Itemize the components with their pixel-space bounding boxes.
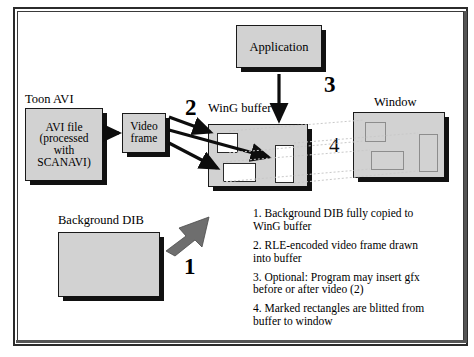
step-number-4: 4 <box>329 135 340 156</box>
window-box <box>353 112 445 178</box>
caption-item-4: 4. Marked rectangles are blitted from bu… <box>253 302 438 328</box>
wing-buffer-box <box>208 124 308 187</box>
video-frame-line-1: Video <box>123 121 165 133</box>
diagram-canvas: Toon AVI AVI file (processed with SCANAV… <box>0 0 474 357</box>
application-box: Application <box>236 25 322 68</box>
window-rect-small-top <box>365 122 386 142</box>
step-number-2: 2 <box>185 96 197 119</box>
step-number-3: 3 <box>324 73 336 96</box>
wing-buffer-rect-wide-bottom <box>223 163 256 182</box>
avi-file-line-1: AVI file <box>26 121 102 133</box>
frame-shadow-right <box>464 11 467 343</box>
caption-item-3: 3. Optional: Program may insert gfx befo… <box>253 271 438 297</box>
toon-avi-label: Toon AVI <box>25 92 74 107</box>
frame-shadow-bottom <box>16 340 467 343</box>
video-frame-box: Video frame <box>122 113 166 153</box>
caption-list: 1. Background DIB fully copied to WinG b… <box>253 207 438 328</box>
caption-item-2: 2. RLE-encoded video frame drawn into bu… <box>253 239 438 265</box>
wing-buffer-rect-tall-right <box>275 145 294 183</box>
wing-buffer-label: WinG buffer <box>208 101 271 116</box>
background-dib-box <box>58 232 160 297</box>
caption-item-1: 1. Background DIB fully copied to WinG b… <box>253 207 438 233</box>
avi-file-line-4: SCANAVI) <box>26 156 102 168</box>
avi-file-box: AVI file (processed with SCANAVI) <box>25 108 103 181</box>
application-label: Application <box>237 40 321 53</box>
video-frame-line-2: frame <box>123 133 165 145</box>
wing-buffer-rect-small-top <box>217 133 238 153</box>
window-rect-tall-right <box>419 134 438 172</box>
step-number-1: 1 <box>184 255 196 278</box>
window-rect-wide-bottom <box>371 151 404 170</box>
background-dib-label: Background DIB <box>58 213 144 228</box>
window-label: Window <box>374 95 417 110</box>
